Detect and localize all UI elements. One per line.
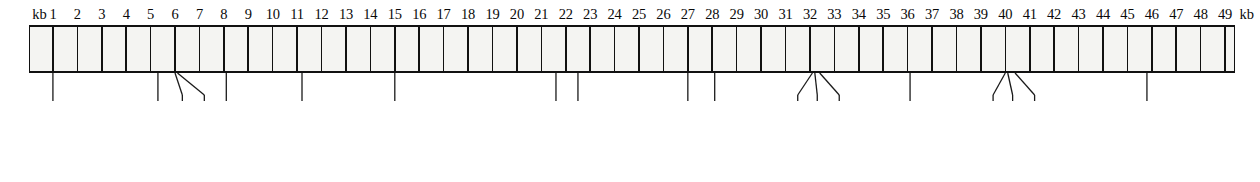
ruler-tick-46 bbox=[1151, 27, 1153, 71]
axis-number-47: 47 bbox=[1169, 7, 1183, 22]
ruler-tick-28 bbox=[711, 27, 713, 71]
axis-number-7: 7 bbox=[196, 7, 203, 22]
ruler-tick-22 bbox=[565, 27, 567, 71]
axis-number-2: 2 bbox=[74, 7, 81, 22]
axis-number-15: 15 bbox=[388, 7, 402, 22]
ruler-tick-24 bbox=[614, 27, 616, 71]
axis-number-10: 10 bbox=[266, 7, 280, 22]
ruler-tick-8 bbox=[223, 27, 225, 71]
axis-number-48: 48 bbox=[1194, 7, 1208, 22]
ruler-tick-11 bbox=[296, 27, 298, 71]
axis-number-29: 29 bbox=[730, 7, 744, 22]
ruler-tick-4 bbox=[125, 27, 127, 71]
ruler-tick-20 bbox=[516, 27, 518, 71]
axis-number-36: 36 bbox=[901, 7, 915, 22]
axis-number-12: 12 bbox=[314, 7, 328, 22]
axis-number-25: 25 bbox=[632, 7, 646, 22]
ruler-tick-5 bbox=[150, 27, 152, 71]
ruler-tick-12 bbox=[321, 27, 323, 71]
axis-number-44: 44 bbox=[1096, 7, 1110, 22]
ruler-tick-16 bbox=[418, 27, 420, 71]
ruler-tick-49 bbox=[1224, 27, 1226, 71]
axis-number-19: 19 bbox=[485, 7, 499, 22]
ruler-tick-29 bbox=[736, 27, 738, 71]
axis-number-37: 37 bbox=[925, 7, 939, 22]
ruler-tick-42 bbox=[1053, 27, 1055, 71]
axis-number-14: 14 bbox=[363, 7, 377, 22]
axis-number-45: 45 bbox=[1120, 7, 1134, 22]
axis-number-27: 27 bbox=[681, 7, 695, 22]
ruler-tick-14 bbox=[370, 27, 372, 71]
axis-number-13: 13 bbox=[339, 7, 353, 22]
axis-number-1: 1 bbox=[49, 7, 56, 22]
axis-unit-label-right: kb bbox=[1240, 7, 1255, 22]
restriction-map-figure: kb12345678910111213141516171819202122232… bbox=[0, 0, 1260, 182]
axis-number-42: 42 bbox=[1047, 7, 1061, 22]
axis-number-6: 6 bbox=[171, 7, 178, 22]
axis-number-39: 39 bbox=[974, 7, 988, 22]
axis-number-23: 23 bbox=[583, 7, 597, 22]
axis-unit-label-left: kb bbox=[32, 7, 47, 22]
axis-number-46: 46 bbox=[1145, 7, 1159, 22]
ruler-tick-18 bbox=[467, 27, 469, 71]
ruler-tick-3 bbox=[101, 27, 103, 71]
ruler-tick-2 bbox=[77, 27, 79, 71]
axis-number-38: 38 bbox=[949, 7, 963, 22]
ruler-tick-7 bbox=[199, 27, 201, 71]
ruler-tick-34 bbox=[858, 27, 860, 71]
axis-number-24: 24 bbox=[608, 7, 622, 22]
ruler-tick-47 bbox=[1175, 27, 1177, 71]
axis-number-26: 26 bbox=[656, 7, 670, 22]
axis-number-20: 20 bbox=[510, 7, 524, 22]
axis-number-3: 3 bbox=[98, 7, 105, 22]
axis-number-17: 17 bbox=[437, 7, 451, 22]
ruler-tick-39 bbox=[980, 27, 982, 71]
ruler-tick-44 bbox=[1102, 27, 1104, 71]
ruler-tick-32 bbox=[809, 27, 811, 71]
ruler-tick-6 bbox=[174, 27, 176, 71]
ruler-tick-37 bbox=[931, 27, 933, 71]
ruler-tick-23 bbox=[589, 27, 591, 71]
axis-number-9: 9 bbox=[245, 7, 252, 22]
axis-number-11: 11 bbox=[290, 7, 304, 22]
axis-number-8: 8 bbox=[220, 7, 227, 22]
axis-number-34: 34 bbox=[852, 7, 866, 22]
axis-number-43: 43 bbox=[1071, 7, 1085, 22]
ruler-tick-48 bbox=[1200, 27, 1202, 71]
ruler-tick-13 bbox=[345, 27, 347, 71]
ruler-tick-17 bbox=[443, 27, 445, 71]
ruler-tick-31 bbox=[785, 27, 787, 71]
ruler-tick-35 bbox=[882, 27, 884, 71]
axis-number-35: 35 bbox=[876, 7, 890, 22]
ruler-tick-27 bbox=[687, 27, 689, 71]
ruler-tick-15 bbox=[394, 27, 396, 71]
ruler-tick-43 bbox=[1078, 27, 1080, 71]
ruler-tick-26 bbox=[663, 27, 665, 71]
axis-number-30: 30 bbox=[754, 7, 768, 22]
axis-number-33: 33 bbox=[827, 7, 841, 22]
ruler-tick-33 bbox=[834, 27, 836, 71]
ruler-tick-45 bbox=[1127, 27, 1129, 71]
axis-number-41: 41 bbox=[1023, 7, 1037, 22]
axis-number-16: 16 bbox=[412, 7, 426, 22]
ruler-tick-21 bbox=[541, 27, 543, 71]
axis-number-31: 31 bbox=[778, 7, 792, 22]
ruler-tick-10 bbox=[272, 27, 274, 71]
axis-number-40: 40 bbox=[998, 7, 1012, 22]
axis-number-28: 28 bbox=[705, 7, 719, 22]
axis-number-32: 32 bbox=[803, 7, 817, 22]
ruler-tick-9 bbox=[247, 27, 249, 71]
axis-number-49: 49 bbox=[1218, 7, 1232, 22]
ruler-tick-38 bbox=[956, 27, 958, 71]
ruler-tick-40 bbox=[1005, 27, 1007, 71]
ruler-tick-19 bbox=[492, 27, 494, 71]
ruler-tick-30 bbox=[760, 27, 762, 71]
axis-number-4: 4 bbox=[123, 7, 130, 22]
ruler-tick-36 bbox=[907, 27, 909, 71]
axis-number-21: 21 bbox=[534, 7, 548, 22]
ruler-tick-25 bbox=[638, 27, 640, 71]
ruler-tick-41 bbox=[1029, 27, 1031, 71]
axis-number-22: 22 bbox=[559, 7, 573, 22]
axis-number-5: 5 bbox=[147, 7, 154, 22]
axis-number-18: 18 bbox=[461, 7, 475, 22]
